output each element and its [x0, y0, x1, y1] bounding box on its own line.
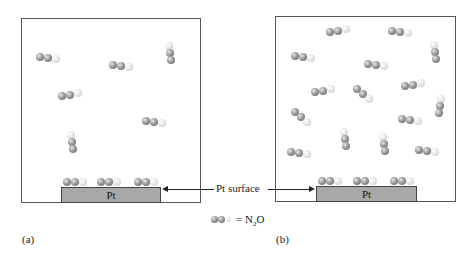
panel-b-pt-plate: Pt — [316, 186, 417, 202]
nitrogen-atom-icon — [69, 145, 77, 153]
oxygen-atom-icon — [369, 177, 377, 185]
pointer-line-left — [168, 189, 214, 190]
nitrogen-atom-icon — [150, 118, 158, 126]
nitrogen-atom-icon — [326, 177, 334, 185]
nitrogen-atom-icon — [372, 61, 380, 69]
oxygen-atom-icon — [365, 95, 373, 103]
oxygen-atom-icon — [125, 63, 133, 71]
nitrogen-atom-icon — [432, 55, 440, 63]
oxygen-atom-icon — [74, 89, 82, 97]
arrowhead-right-icon — [309, 186, 315, 192]
nitrogen-atom-icon — [398, 115, 406, 123]
nitrogen-atom-icon — [415, 146, 423, 154]
nitrogen-atom-icon — [388, 27, 396, 35]
legend-formula: = N2O — [236, 213, 264, 228]
nitrogen-atom-icon — [71, 178, 79, 186]
oxygen-atom-icon — [327, 85, 335, 93]
nitrogen-atom-icon — [287, 148, 295, 156]
nitrogen-atom-icon — [299, 53, 307, 61]
nitrogen-atom-icon — [142, 178, 150, 186]
legend-nitrogen-atom-icon — [211, 216, 218, 223]
pt-surface-label: Pt surface — [216, 182, 260, 194]
oxygen-atom-icon — [414, 117, 422, 125]
nitrogen-atom-icon — [406, 116, 414, 124]
nitrogen-atom-icon — [105, 178, 113, 186]
nitrogen-atom-icon — [353, 177, 361, 185]
legend-formula-suffix: O — [256, 213, 264, 225]
nitrogen-atom-icon — [435, 109, 443, 117]
nitrogen-atom-icon — [318, 177, 326, 185]
nitrogen-atom-icon — [134, 178, 142, 186]
arrowhead-left-icon — [162, 186, 168, 192]
nitrogen-atom-icon — [364, 60, 372, 68]
oxygen-atom-icon — [342, 25, 350, 33]
nitrogen-atom-icon — [36, 53, 44, 61]
nitrogen-atom-icon — [396, 28, 404, 36]
oxygen-atom-icon — [113, 178, 121, 186]
nitrogen-atom-icon — [326, 28, 334, 36]
panel-b-caption: (b) — [276, 233, 289, 245]
nitrogen-atom-icon — [390, 177, 398, 185]
nitrogen-atom-icon — [291, 52, 299, 60]
nitrogen-atom-icon — [319, 87, 327, 95]
nitrogen-atom-icon — [66, 91, 74, 99]
legend-oxygen-atom-icon — [226, 217, 231, 222]
legend: = N2O — [211, 214, 291, 226]
nitrogen-atom-icon — [58, 92, 66, 100]
nitrogen-atom-icon — [117, 62, 125, 70]
nitrogen-atom-icon — [401, 82, 409, 90]
nitrogen-atom-icon — [334, 27, 342, 35]
nitrogen-atom-icon — [167, 56, 175, 64]
oxygen-atom-icon — [334, 177, 342, 185]
oxygen-atom-icon — [406, 177, 414, 185]
nitrogen-atom-icon — [97, 178, 105, 186]
nitrogen-atom-icon — [361, 177, 369, 185]
oxygen-atom-icon — [380, 62, 388, 70]
nitrogen-atom-icon — [381, 147, 389, 155]
nitrogen-atom-icon — [311, 88, 319, 96]
nitrogen-atom-icon — [409, 81, 417, 89]
panel-a-container — [21, 18, 201, 203]
oxygen-atom-icon — [303, 118, 311, 126]
oxygen-atom-icon — [431, 148, 439, 156]
oxygen-atom-icon — [158, 119, 166, 127]
panel-a-pt-label: Pt — [106, 189, 115, 201]
panel-a-pt-plate: Pt — [61, 187, 161, 203]
panel-b-pt-label: Pt — [362, 188, 371, 200]
nitrogen-atom-icon — [423, 147, 431, 155]
nitrogen-atom-icon — [295, 149, 303, 157]
panel-b-container — [275, 16, 456, 202]
nitrogen-atom-icon — [44, 54, 52, 62]
pointer-line-right — [268, 189, 310, 190]
oxygen-atom-icon — [52, 55, 60, 63]
legend-formula-prefix: = N — [236, 213, 253, 225]
nitrogen-atom-icon — [398, 177, 406, 185]
oxygen-atom-icon — [417, 79, 425, 87]
panel-a-caption: (a) — [22, 233, 34, 245]
nitrogen-atom-icon — [142, 117, 150, 125]
oxygen-atom-icon — [150, 178, 158, 186]
oxygen-atom-icon — [307, 54, 315, 62]
legend-nitrogen-atom-icon — [218, 216, 225, 223]
oxygen-atom-icon — [79, 178, 87, 186]
nitrogen-atom-icon — [109, 61, 117, 69]
nitrogen-atom-icon — [63, 178, 71, 186]
oxygen-atom-icon — [404, 29, 412, 37]
nitrogen-atom-icon — [342, 142, 350, 150]
oxygen-atom-icon — [303, 150, 311, 158]
